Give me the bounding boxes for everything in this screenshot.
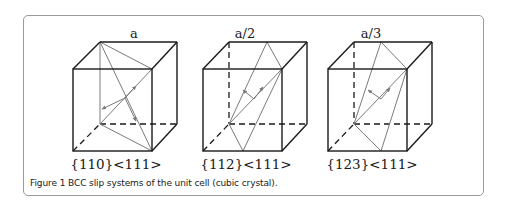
cube-112: a/2 {112}<111> <box>200 26 307 172</box>
slip-plane <box>229 42 282 151</box>
slip-plane <box>100 42 152 151</box>
slip-system-label: {123}<111> <box>326 156 417 172</box>
slip-system-label: {112}<111> <box>200 156 291 172</box>
figure-caption: Figure 1 BCC slip systems of the unit ce… <box>30 178 277 188</box>
cube-123: a/3 {123}<111> <box>326 26 432 172</box>
cube-title: a/3 <box>361 26 381 41</box>
cube-110: a {110}<111> <box>70 26 177 172</box>
cube-title: a <box>130 26 138 41</box>
bcc-slip-diagram: a {110}<111> a/2 {112}<111> <box>0 0 509 206</box>
slip-plane <box>354 42 407 151</box>
cube-title: a/2 <box>235 26 255 41</box>
slip-system-label: {110}<111> <box>70 156 161 172</box>
